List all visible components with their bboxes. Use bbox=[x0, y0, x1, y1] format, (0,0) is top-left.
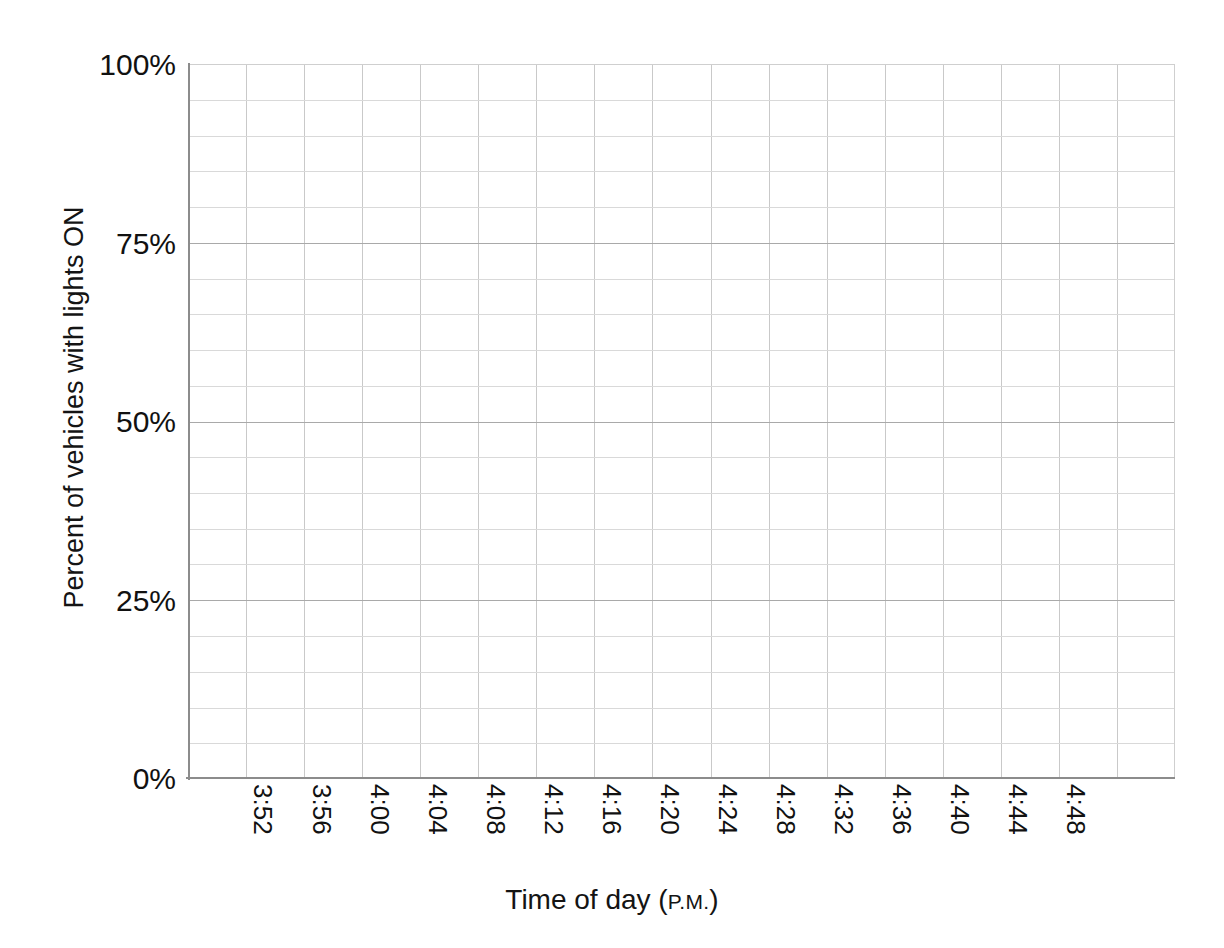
x-tick-label-3-52: 3:52 bbox=[248, 784, 278, 876]
grid-line-horizontal-minor bbox=[188, 386, 1175, 387]
grid-line-horizontal-minor bbox=[188, 672, 1175, 673]
grid-line-horizontal-minor bbox=[188, 171, 1175, 172]
grid-lines bbox=[188, 64, 1175, 779]
grid-line-horizontal-minor bbox=[188, 493, 1175, 494]
x-axis-title-main: Time of day ( bbox=[505, 884, 667, 915]
x-tick-label-4-40: 4:40 bbox=[945, 784, 975, 876]
y-axis-spine bbox=[188, 63, 190, 780]
grid-line-horizontal-minor bbox=[188, 564, 1175, 565]
x-tick-label-4-48: 4:48 bbox=[1061, 784, 1091, 876]
x-tick-label-4-44: 4:44 bbox=[1003, 784, 1033, 876]
x-axis-tick-labels: 3:523:564:004:044:084:124:164:204:244:28… bbox=[188, 784, 1175, 876]
grid-line-horizontal-minor bbox=[188, 529, 1175, 530]
grid-line-horizontal-minor bbox=[188, 350, 1175, 351]
axis-spine-top bbox=[188, 64, 1175, 65]
x-tick-label-4-00: 4:00 bbox=[365, 784, 395, 876]
grid-line-horizontal-minor bbox=[188, 207, 1175, 208]
x-tick-label-4-32: 4:32 bbox=[829, 784, 859, 876]
x-tick-label-4-36: 4:36 bbox=[887, 784, 917, 876]
y-tick-label-100: 100% bbox=[56, 48, 176, 82]
x-tick-label-3-56: 3:56 bbox=[307, 784, 337, 876]
x-tick-label-4-16: 4:16 bbox=[597, 784, 627, 876]
axis-spine-right bbox=[1174, 64, 1175, 779]
y-tick-label-75: 75% bbox=[56, 227, 176, 261]
y-axis-tick-labels: 100% 75% 50% 25% 0% bbox=[52, 0, 176, 948]
x-axis-title-smallcaps: P.M. bbox=[668, 890, 710, 913]
grid-line-horizontal-minor bbox=[188, 100, 1175, 101]
x-axis-spine bbox=[186, 777, 1175, 779]
grid-line-horizontal-major bbox=[188, 422, 1175, 423]
x-tick-label-4-12: 4:12 bbox=[539, 784, 569, 876]
x-axis-title-close: ) bbox=[709, 884, 718, 915]
grid-line-horizontal-minor bbox=[188, 636, 1175, 637]
grid-line-horizontal-minor bbox=[188, 457, 1175, 458]
grid-line-horizontal-minor bbox=[188, 708, 1175, 709]
grid-line-horizontal-major bbox=[188, 243, 1175, 244]
grid-line-horizontal-major bbox=[188, 600, 1175, 601]
grid-line-horizontal-minor bbox=[188, 314, 1175, 315]
plot-area bbox=[188, 64, 1175, 779]
x-tick-label-4-04: 4:04 bbox=[423, 784, 453, 876]
x-axis-title: Time of day (P.M.) bbox=[0, 884, 1224, 916]
x-tick-label-4-20: 4:20 bbox=[655, 784, 685, 876]
grid-line-horizontal-minor bbox=[188, 136, 1175, 137]
y-tick-label-50: 50% bbox=[56, 405, 176, 439]
x-tick-label-4-08: 4:08 bbox=[481, 784, 511, 876]
chart-figure: Percent of vehicles with lights ON 100% … bbox=[0, 0, 1224, 948]
figure-title-cropped bbox=[150, 0, 1080, 4]
y-tick-label-0: 0% bbox=[56, 762, 176, 796]
x-tick-label-4-24: 4:24 bbox=[713, 784, 743, 876]
grid-line-horizontal-minor bbox=[188, 279, 1175, 280]
y-tick-label-25: 25% bbox=[56, 584, 176, 618]
grid-line-horizontal-minor bbox=[188, 743, 1175, 744]
x-tick-label-4-28: 4:28 bbox=[771, 784, 801, 876]
